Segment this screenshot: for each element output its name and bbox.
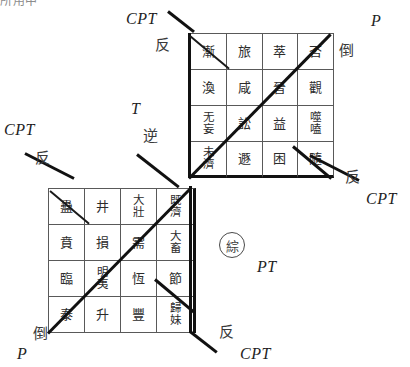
- grid-cell: 豐: [121, 297, 157, 333]
- diagonal-ni-arrow: [136, 153, 180, 188]
- label-bottom-right-fan: 反: [219, 320, 234, 341]
- diagonal-upper-left-arm: [167, 10, 195, 33]
- label-top-right-dao: 倒: [339, 39, 354, 60]
- label-bottom-right-cpt: CPT: [240, 345, 271, 363]
- label-center-t: T: [131, 100, 140, 118]
- cut-off-text-remnant: 所用中: [0, 0, 38, 8]
- grid-cell: 噬嗑: [298, 106, 334, 142]
- label-center-ni: 逆: [143, 124, 158, 145]
- label-top-left-cpt: CPT: [126, 10, 157, 28]
- hexagram-symmetry-diagram: 所用中 漸 旅 萃 否 渙 咸 晉 觀 无妄 訟 益 噬嗑 未濟 遯 困: [0, 0, 410, 367]
- grid-cell: 升: [85, 297, 121, 333]
- grid-cell: 否: [298, 34, 334, 70]
- label-mid-left-cpt: CPT: [4, 121, 35, 139]
- label-right-fan: 反: [345, 165, 360, 186]
- vertical-axis-line: [188, 33, 191, 178]
- grid-cell: 恆: [121, 261, 157, 297]
- label-bottom-left-dao: 倒: [33, 322, 48, 343]
- label-mid-left-fan: 反: [35, 146, 50, 167]
- grid-cell: 賁: [49, 225, 85, 261]
- grid-cell: 臨: [49, 261, 85, 297]
- grid-cell: 渙: [191, 70, 227, 106]
- label-top-right-p: P: [371, 12, 381, 30]
- grid-cell: 節: [157, 261, 193, 297]
- zong-label: 綜: [226, 236, 239, 255]
- label-right-cpt: CPT: [366, 190, 397, 208]
- grid-cell: 歸妹: [157, 297, 193, 333]
- grid-cell: 損: [85, 225, 121, 261]
- grid-cell: 大壯: [121, 189, 157, 225]
- grid-cell: 萃: [263, 34, 299, 70]
- grid-cell: 无妄: [191, 106, 227, 142]
- grid-cell: 觀: [298, 70, 334, 106]
- grid-cell: 益: [263, 106, 299, 142]
- grid-cell: 咸: [227, 70, 263, 106]
- label-top-left-fan: 反: [155, 33, 170, 54]
- zong-center-marker: 綜: [219, 232, 245, 258]
- grid-cell: 旅: [227, 34, 263, 70]
- label-center-pt: PT: [257, 258, 277, 276]
- grid-cell: 大畜: [157, 225, 193, 261]
- grid-cell: 井: [85, 189, 121, 225]
- label-bottom-left-p: P: [17, 345, 27, 363]
- diagonal-bottom-right-arm: [189, 330, 218, 353]
- grid-cell: 既濟: [157, 189, 193, 225]
- grid-cell: 晉: [263, 70, 299, 106]
- grid-cell: 遯: [227, 142, 263, 178]
